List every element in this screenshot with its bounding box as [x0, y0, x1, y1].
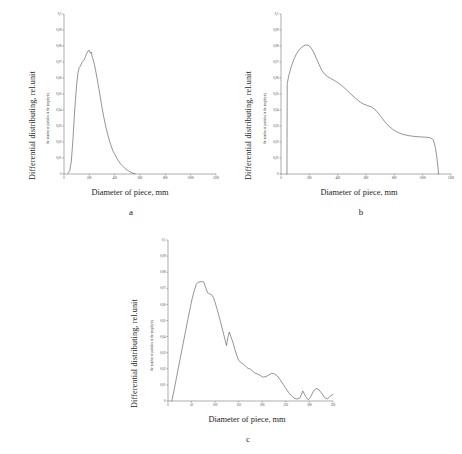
svg-text:1000: 1000 — [188, 176, 195, 180]
svg-text:0: 0 — [164, 399, 166, 403]
svg-text:600: 600 — [364, 176, 369, 180]
svg-text:0,05: 0,05 — [160, 319, 166, 324]
svg-text:0,03: 0,03 — [56, 124, 62, 129]
svg-text:0,09: 0,09 — [56, 28, 62, 33]
svg-text:0,05: 0,05 — [56, 92, 62, 97]
panel-b-plot-area: 00,010,020,030,040,050,060,070,080,090,1… — [265, 8, 455, 186]
svg-text:0,06: 0,06 — [273, 76, 279, 81]
svg-text:600: 600 — [138, 176, 143, 180]
svg-text:800: 800 — [163, 176, 168, 180]
svg-text:0,09: 0,09 — [160, 254, 166, 259]
panel-a: Differential distributing, rel.unit Diam… — [18, 2, 223, 227]
svg-text:0,01: 0,01 — [273, 156, 279, 161]
svg-text:0,02: 0,02 — [273, 140, 279, 145]
svg-text:0,04: 0,04 — [56, 108, 62, 113]
panel-c-plot-area: 00,010,020,030,040,050,060,070,080,090,1… — [152, 234, 337, 413]
svg-text:1200: 1200 — [213, 176, 220, 180]
svg-text:1000: 1000 — [420, 176, 427, 180]
svg-text:0,02: 0,02 — [56, 140, 62, 145]
figure-particle-size-distributions: Differential distributing, rel.unit Diam… — [0, 0, 462, 454]
svg-text:0,03: 0,03 — [160, 351, 166, 356]
svg-text:0,04: 0,04 — [273, 108, 279, 113]
panel-b: Differential distributing, rel.unit Diam… — [236, 2, 458, 227]
svg-text:0,1: 0,1 — [58, 12, 62, 17]
svg-text:0,04: 0,04 — [160, 335, 166, 340]
svg-text:100: 100 — [213, 403, 218, 407]
panel-c-x-axis-title: Diameter of piece, mm — [172, 415, 322, 424]
svg-text:50: 50 — [190, 403, 194, 407]
svg-text:800: 800 — [392, 176, 397, 180]
svg-text:0: 0 — [167, 403, 169, 407]
panel-b-letter: b — [351, 207, 371, 217]
svg-text:0,01: 0,01 — [160, 383, 166, 388]
panel-a-chart: 00,010,020,030,040,050,060,070,080,090,1… — [48, 8, 220, 186]
svg-text:0,01: 0,01 — [56, 156, 62, 161]
svg-text:350: 350 — [331, 403, 336, 407]
svg-text:0,1: 0,1 — [275, 12, 279, 17]
panel-b-y-axis-title: Differential distributing, rel.unit — [244, 71, 253, 180]
svg-text:0,07: 0,07 — [160, 286, 166, 291]
svg-text:0,08: 0,08 — [160, 270, 166, 275]
svg-text:300: 300 — [307, 403, 312, 407]
svg-text:200: 200 — [307, 176, 312, 180]
svg-text:150: 150 — [236, 403, 241, 407]
svg-text:0,06: 0,06 — [160, 303, 166, 308]
svg-text:0,07: 0,07 — [56, 60, 62, 65]
svg-text:0,1: 0,1 — [162, 238, 166, 243]
panel-c-letter: c — [238, 434, 258, 444]
svg-text:0,07: 0,07 — [273, 60, 279, 65]
panel-b-x-axis-title: Diameter of piece, mm — [284, 188, 434, 197]
svg-text:0: 0 — [60, 172, 62, 176]
svg-text:0: 0 — [280, 176, 282, 180]
svg-text:400: 400 — [335, 176, 340, 180]
svg-text:0: 0 — [277, 172, 279, 176]
svg-text:200: 200 — [87, 176, 92, 180]
panel-c-y-axis-title: Differential distributing, rel.unit — [130, 299, 139, 408]
panel-a-plot-area: 00,010,020,030,040,050,060,070,080,090,1… — [48, 8, 220, 186]
svg-text:0: 0 — [63, 176, 65, 180]
panel-a-letter: a — [121, 207, 141, 217]
svg-text:0,05: 0,05 — [273, 92, 279, 97]
svg-text:0,06: 0,06 — [56, 76, 62, 81]
panel-b-chart: 00,010,020,030,040,050,060,070,080,090,1… — [265, 8, 455, 186]
panel-a-x-axis-title: Diameter of piece, mm — [60, 188, 200, 197]
svg-text:0,02: 0,02 — [160, 367, 166, 372]
svg-text:1200: 1200 — [448, 176, 455, 180]
svg-text:0,08: 0,08 — [56, 44, 62, 49]
svg-text:400: 400 — [112, 176, 117, 180]
panel-c: Differential distributing, rel.unit Diam… — [120, 228, 365, 454]
svg-text:0,09: 0,09 — [273, 28, 279, 33]
svg-text:0,03: 0,03 — [273, 124, 279, 129]
svg-text:200: 200 — [260, 403, 265, 407]
panel-c-chart: 00,010,020,030,040,050,060,070,080,090,1… — [152, 234, 337, 413]
svg-text:250: 250 — [284, 403, 289, 407]
panel-a-y-axis-title: Differential distributing, rel.unit — [28, 71, 37, 180]
svg-text:0,08: 0,08 — [273, 44, 279, 49]
